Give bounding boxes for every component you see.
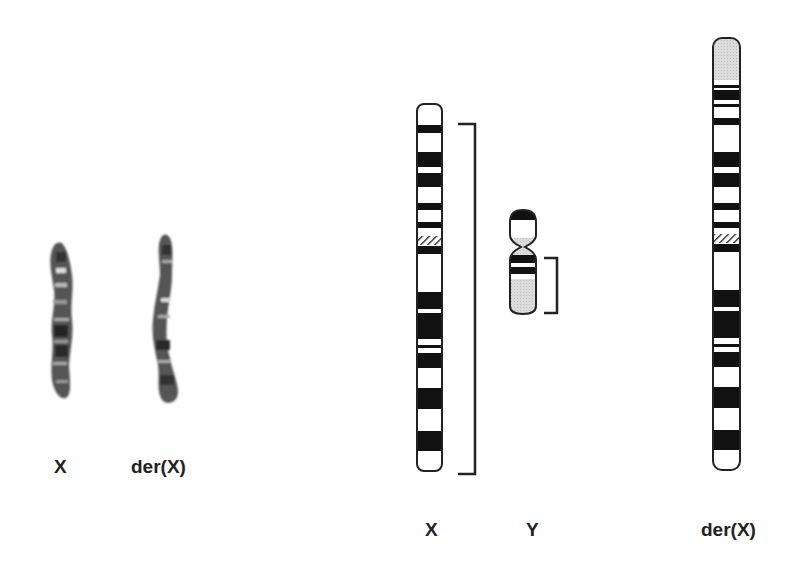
label-ideogram-y: Y [526, 519, 539, 541]
bracket-y [544, 258, 557, 313]
ideogram-y [510, 210, 557, 314]
label-ideogram-x: X [425, 519, 438, 541]
ideogram-der-x [713, 38, 740, 470]
photo-chromosome-x [50, 242, 72, 398]
photo-chromosome-der-x [152, 234, 178, 402]
label-photo-x: X [54, 456, 67, 478]
karyotype-diagram [0, 0, 797, 566]
ideogram-x [417, 104, 475, 474]
bracket-x [458, 124, 475, 474]
label-ideogram-der-x: der(X) [701, 519, 756, 541]
label-photo-der-x: der(X) [131, 456, 186, 478]
